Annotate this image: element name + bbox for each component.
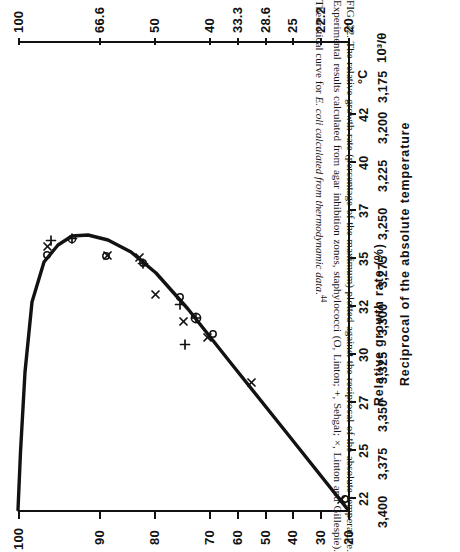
reciprocal-tick-3175: 3,175 (376, 71, 390, 103)
reciprocal-tick-3325: 3,325 (376, 352, 390, 384)
celsius-tick-35: 35 (357, 252, 371, 266)
gentime-tick-40: 40 (202, 18, 217, 33)
marker-circle-plus (191, 313, 200, 322)
reciprocal-tick-3225: 3,225 (376, 160, 390, 192)
marker-cross (180, 318, 187, 325)
figure-stage: 20 30 40 50 60 70 80 90 100 Relative gro… (0, 0, 460, 552)
celsius-tick-40: 40 (357, 156, 371, 170)
reciprocal-tick-3275: 3,275 (376, 256, 390, 288)
rotated-plot-container: 20 30 40 50 60 70 80 90 100 Relative gro… (0, 0, 460, 552)
marker-cross (152, 291, 159, 298)
gentime-tick-50: 50 (147, 18, 162, 33)
reciprocal-tick-3300: 3,300 (376, 304, 390, 336)
caption-reference: 44 (319, 295, 328, 303)
celsius-unit-label: °C (356, 70, 370, 84)
gentime-tick-33-3: 33.3 (230, 7, 245, 33)
reciprocal-tick-3400: 3,400 (376, 496, 390, 528)
reciprocal-unit-label: 10³/θ (374, 33, 389, 63)
growth-tick-90: 90 (92, 530, 107, 545)
growth-tick-60: 60 (230, 530, 245, 545)
celsius-tick-30: 30 (357, 348, 371, 362)
growth-tick-100: 100 (11, 528, 26, 550)
temperature-axis-title: Reciprocal of the absolute temperature (398, 122, 412, 386)
celsius-tick-32: 32 (357, 300, 371, 314)
celsius-tick-22: 22 (357, 492, 371, 506)
celsius-tick-27: 27 (357, 396, 371, 410)
growth-tick-70: 70 (202, 530, 217, 545)
gentime-tick-66-6: 66.6 (92, 7, 107, 33)
gentime-tick-100: 100 (11, 11, 26, 33)
marker-group-sehgal (47, 234, 190, 349)
reciprocal-tick-3350: 3,350 (376, 400, 390, 432)
celsius-tick-37: 37 (357, 204, 371, 218)
reciprocal-tick-3375: 3,375 (376, 448, 390, 480)
celsius-tick-25: 25 (357, 444, 371, 458)
marker-plus (181, 340, 190, 349)
celsius-tick-42: 42 (357, 108, 371, 122)
reciprocal-tick-3200: 3,200 (376, 112, 390, 144)
figure-label: FIG. 22. (345, 0, 357, 38)
figure-caption: FIG. 22. The relative growth rate (perce… (257, 0, 357, 552)
reciprocal-tick-3250: 3,250 (376, 208, 390, 240)
marker-cross (248, 379, 255, 386)
marker-cross (44, 243, 51, 250)
caption-text-italic: E. coli calculated from thermodynamic da… (315, 96, 327, 292)
data-layer (0, 0, 460, 552)
growth-tick-80: 80 (147, 530, 162, 545)
